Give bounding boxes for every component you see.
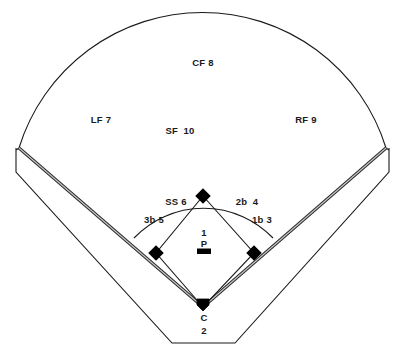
position-label-catcher: C <box>200 313 207 324</box>
position-label-left-field: LF 7 <box>91 114 111 125</box>
position-label-catcher-number: 2 <box>201 326 206 337</box>
position-label-third-base: 3b 5 <box>144 214 164 225</box>
position-label-pitcher-number: 1 <box>201 228 206 239</box>
position-label-short-field: SF 10 <box>165 125 194 136</box>
position-label-right-field: RF 9 <box>295 114 316 125</box>
outfield-fence-arc <box>19 12 386 148</box>
home-plate-marker <box>197 299 209 311</box>
position-label-center-field: CF 8 <box>192 57 213 68</box>
position-label-pitcher: P <box>201 239 208 250</box>
foul-line-left-inner <box>19 148 203 307</box>
field-graphics <box>0 0 402 358</box>
position-label-first-base: 1b 3 <box>252 214 272 225</box>
baseball-field-diagram: CF 8 LF 7 RF 9 SF 10 SS 6 2b 4 3b 5 1b 3… <box>0 0 402 358</box>
position-label-second-base: 2b 4 <box>236 196 259 207</box>
pitchers-rubber <box>197 249 211 255</box>
position-label-shortstop: SS 6 <box>165 196 186 207</box>
